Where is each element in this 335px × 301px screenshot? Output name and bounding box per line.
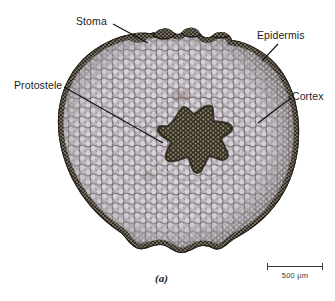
organ-section — [52, 26, 302, 262]
annotation-label-protostele: Protostele — [14, 80, 62, 91]
scale-bar-line — [267, 266, 323, 267]
annotation-label-epidermis: Epidermis — [257, 30, 305, 41]
scale-bar: 500 μm — [267, 263, 323, 280]
annotation-label-cortex: Cortex — [292, 91, 324, 102]
scale-bar-cap-right — [322, 263, 323, 270]
micrograph-image — [52, 26, 302, 262]
scale-bar-label: 500 μm — [267, 271, 323, 280]
figure-panel: Stoma Epidermis Protostele Cortex (a) 50… — [0, 0, 335, 301]
panel-letter: (a) — [155, 272, 168, 284]
scale-bar-rule — [267, 263, 323, 270]
annotation-label-stoma: Stoma — [76, 16, 107, 27]
scale-bar-cap-left — [267, 263, 268, 270]
